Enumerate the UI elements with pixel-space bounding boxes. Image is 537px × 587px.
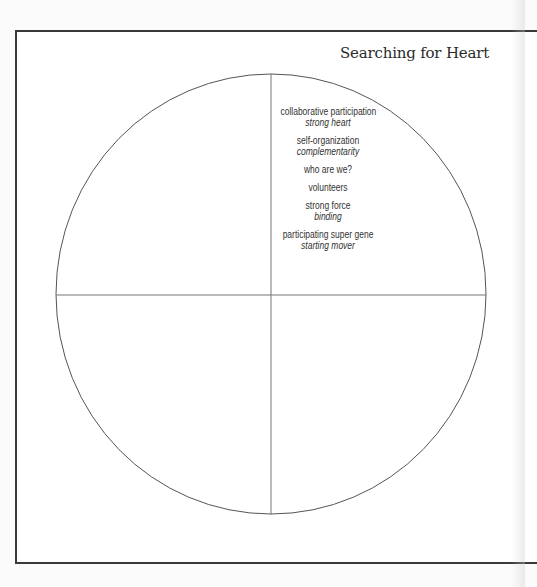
label-sub: starting mover (280, 240, 375, 251)
label-main: who are we? (280, 164, 375, 175)
label-item: strong force binding (272, 200, 384, 222)
label-sub: binding (280, 211, 375, 222)
label-item: who are we? (272, 164, 384, 175)
label-item: participating super gene starting mover (272, 229, 384, 251)
label-item: collaborative participation strong heart (272, 106, 384, 128)
label-main: participating super gene (280, 229, 375, 240)
label-item: volunteers (272, 182, 384, 193)
label-main: collaborative participation (280, 106, 375, 117)
label-main: strong force (280, 200, 375, 211)
label-sub: complementarity (280, 146, 375, 157)
label-sub: strong heart (280, 117, 375, 128)
top-right-quadrant-labels: collaborative participation strong heart… (272, 106, 384, 258)
label-main: volunteers (280, 182, 375, 193)
label-main: self-organization (280, 135, 375, 146)
label-item: self-organization complementarity (272, 135, 384, 157)
